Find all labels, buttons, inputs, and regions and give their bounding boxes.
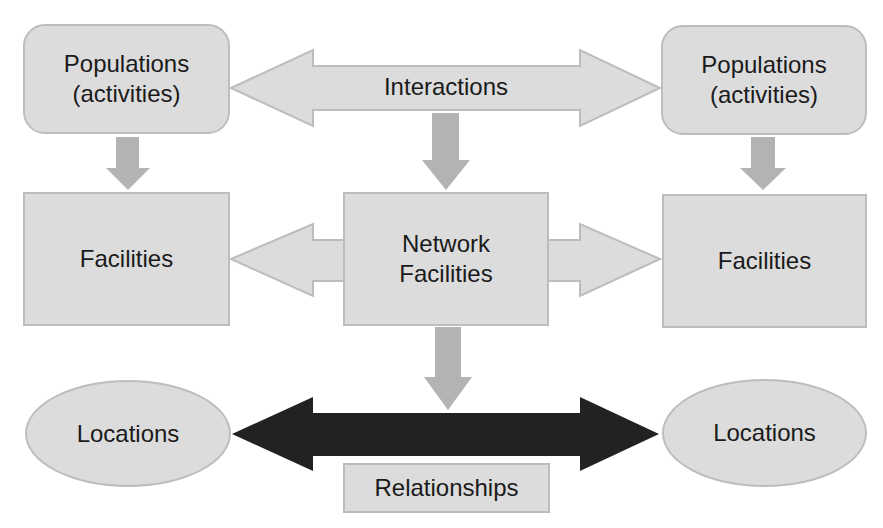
- network-facilities-line1: Network: [399, 229, 492, 259]
- locations-right-node: Locations: [662, 379, 867, 487]
- populations-right-line2: (activities): [701, 80, 826, 110]
- facilities-right-label: Facilities: [718, 246, 811, 276]
- populations-left-node: Populations (activities): [23, 24, 230, 134]
- populations-left-line1: Populations: [64, 49, 189, 79]
- populations-right-line1: Populations: [701, 50, 826, 80]
- network-right-arrow: [547, 224, 660, 296]
- facilities-left-label: Facilities: [80, 244, 173, 274]
- down-arrow-network: [424, 327, 472, 410]
- populations-left-line2: (activities): [64, 79, 189, 109]
- locations-right-label: Locations: [713, 418, 816, 448]
- down-arrow-interactions: [422, 113, 470, 190]
- down-arrow-populations-left: [106, 137, 150, 190]
- locations-left-label: Locations: [77, 419, 180, 449]
- relationships-node: Relationships: [343, 463, 550, 513]
- populations-right-node: Populations (activities): [661, 25, 867, 135]
- down-arrow-populations-right: [740, 137, 786, 190]
- locations-left-node: Locations: [25, 380, 231, 487]
- facilities-right-node: Facilities: [662, 194, 867, 328]
- relationships-label: Relationships: [374, 473, 518, 503]
- interactions-label: Interactions: [330, 72, 562, 102]
- network-facilities-node: Network Facilities: [343, 192, 549, 326]
- facilities-left-node: Facilities: [23, 192, 230, 326]
- network-left-arrow: [231, 224, 345, 296]
- relationships-double-arrow: [232, 397, 659, 471]
- diagram-canvas: Interactions Populations (activities) Po…: [0, 0, 883, 528]
- network-facilities-line2: Facilities: [399, 259, 492, 289]
